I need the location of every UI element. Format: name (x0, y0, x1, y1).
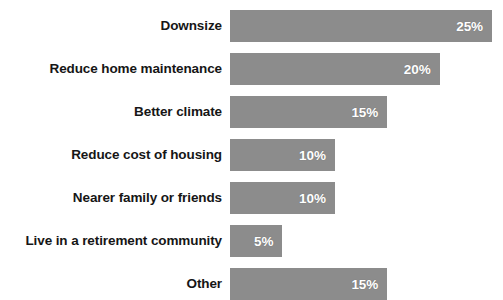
bar-track: 15% (230, 268, 503, 300)
bar-value-label: 15% (351, 277, 378, 292)
bar-fill: 25% (230, 10, 492, 42)
bar-row: Reduce home maintenance20% (0, 53, 503, 85)
bar-row: Downsize25% (0, 10, 503, 42)
category-label: Reduce home maintenance (0, 53, 222, 85)
category-label: Live in a retirement community (0, 225, 222, 257)
bar-track: 20% (230, 53, 503, 85)
bar-fill: 10% (230, 182, 335, 214)
category-label: Reduce cost of housing (0, 139, 222, 171)
category-label: Nearer family or friends (0, 182, 222, 214)
bar-row: Reduce cost of housing10% (0, 139, 503, 171)
category-label: Better climate (0, 96, 222, 128)
bar-fill: 15% (230, 96, 387, 128)
bar-row: Other15% (0, 268, 503, 300)
bar-value-label: 15% (351, 105, 378, 120)
bar-value-label: 25% (456, 19, 483, 34)
category-label: Other (0, 268, 222, 300)
bar-value-label: 20% (404, 62, 431, 77)
bar-track: 25% (230, 10, 503, 42)
bar-fill: 15% (230, 268, 387, 300)
bar-row: Nearer family or friends10% (0, 182, 503, 214)
bar-value-label: 5% (254, 234, 273, 249)
bar-row: Live in a retirement community5% (0, 225, 503, 257)
bar-track: 10% (230, 139, 503, 171)
category-label: Downsize (0, 10, 222, 42)
bar-row: Better climate15% (0, 96, 503, 128)
bar-fill: 20% (230, 53, 440, 85)
bar-fill: 5% (230, 225, 282, 257)
bar-track: 5% (230, 225, 503, 257)
bar-track: 15% (230, 96, 503, 128)
bar-track: 10% (230, 182, 503, 214)
bar-value-label: 10% (299, 191, 326, 206)
bar-fill: 10% (230, 139, 335, 171)
bar-value-label: 10% (299, 148, 326, 163)
